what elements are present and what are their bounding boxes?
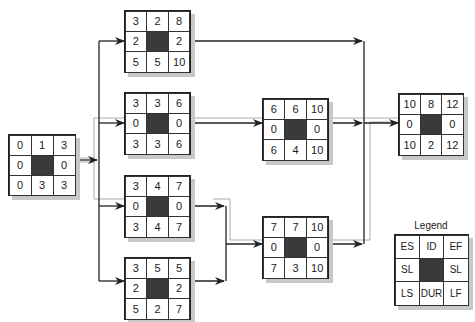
ls-cell: 0 (9, 175, 32, 196)
ef-cell: 10 (306, 99, 329, 120)
es-cell: 0 (9, 135, 32, 156)
activity-node-f: 6 6 10 0 0 6 4 10 (262, 98, 329, 161)
activity-node-e: 3 5 5 2 2 5 2 7 (124, 257, 191, 320)
center-fill (146, 31, 169, 52)
legend-id: ID (419, 235, 444, 259)
activity-node-g: 7 7 10 0 0 7 3 10 (262, 216, 329, 279)
center-fill (284, 119, 307, 140)
lf-cell: 7 (168, 216, 191, 237)
slack-left-cell: 0 (125, 196, 148, 217)
dur-cell: 5 (146, 51, 169, 72)
slack-right-cell: 0 (306, 119, 329, 140)
slack-right-cell: 0 (441, 114, 463, 135)
id-cell: 7 (284, 217, 307, 238)
es-cell: 3 (125, 258, 148, 279)
slack-left-cell: 0 (263, 119, 286, 140)
slack-right-cell: 0 (168, 196, 191, 217)
slack-right-cell: 0 (168, 113, 191, 134)
activity-node-d: 3 4 7 0 0 3 4 7 (124, 175, 191, 238)
id-cell: 3 (146, 93, 169, 114)
legend-ef: EF (443, 235, 468, 259)
ef-cell: 3 (53, 135, 76, 156)
ls-cell: 10 (399, 134, 421, 155)
dur-cell: 3 (31, 175, 54, 196)
slack-left-cell: 2 (125, 31, 148, 52)
center-fill (420, 114, 442, 135)
slack-left-cell: 0 (399, 114, 421, 135)
legend-lf: LF (443, 281, 468, 305)
center-fill (284, 237, 307, 258)
lf-cell: 7 (168, 298, 191, 319)
legend-ls: LS (395, 281, 420, 305)
id-cell: 5 (146, 258, 169, 279)
dur-cell: 4 (284, 139, 307, 160)
slack-left-cell: 0 (125, 113, 148, 134)
lf-cell: 3 (53, 175, 76, 196)
ls-cell: 6 (263, 139, 286, 160)
ls-cell: 7 (263, 257, 286, 278)
es-cell: 3 (125, 93, 148, 114)
es-cell: 3 (125, 176, 148, 197)
ls-cell: 5 (125, 51, 148, 72)
id-cell: 8 (420, 94, 442, 115)
es-cell: 7 (263, 217, 286, 238)
legend-es: ES (395, 235, 420, 259)
id-cell: 6 (284, 99, 307, 120)
id-cell: 2 (146, 11, 169, 32)
lf-cell: 10 (306, 257, 329, 278)
lf-cell: 6 (168, 133, 191, 154)
slack-right-cell: 2 (168, 278, 191, 299)
ef-cell: 10 (306, 217, 329, 238)
ef-cell: 5 (168, 258, 191, 279)
id-cell: 4 (146, 176, 169, 197)
ef-cell: 7 (168, 176, 191, 197)
id-cell: 1 (31, 135, 54, 156)
lf-cell: 12 (441, 134, 463, 155)
dur-cell: 2 (146, 298, 169, 319)
dur-cell: 3 (146, 133, 169, 154)
ef-cell: 8 (168, 11, 191, 32)
lf-cell: 10 (306, 139, 329, 160)
legend-center-fill (419, 258, 444, 282)
slack-right-cell: 0 (53, 155, 76, 176)
slack-left-cell: 2 (125, 278, 148, 299)
activity-node-h: 10 8 12 0 0 10 2 12 (398, 93, 464, 156)
center-fill (146, 113, 169, 134)
es-cell: 6 (263, 99, 286, 120)
dur-cell: 4 (146, 216, 169, 237)
legend-sl-left: SL (395, 258, 420, 282)
center-fill (146, 278, 169, 299)
dur-cell: 2 (420, 134, 442, 155)
critical-path-highlight (74, 118, 398, 240)
es-cell: 3 (125, 11, 148, 32)
center-fill (31, 155, 54, 176)
dur-cell: 3 (284, 257, 307, 278)
slack-left-cell: 0 (9, 155, 32, 176)
lf-cell: 10 (168, 51, 191, 72)
legend-dur: DUR (419, 281, 444, 305)
activity-node-b: 3 2 8 2 2 5 5 10 (124, 10, 191, 73)
ls-cell: 3 (125, 216, 148, 237)
slack-right-cell: 2 (168, 31, 191, 52)
ef-cell: 12 (441, 94, 463, 115)
ls-cell: 5 (125, 298, 148, 319)
activity-node-c: 3 3 6 0 0 3 3 6 (124, 92, 191, 155)
slack-left-cell: 0 (263, 237, 286, 258)
slack-right-cell: 0 (306, 237, 329, 258)
ef-cell: 6 (168, 93, 191, 114)
legend-title: Legend (394, 220, 468, 231)
center-fill (146, 196, 169, 217)
legend-box: ES ID EF SL SL LS DUR LF (394, 234, 469, 306)
es-cell: 10 (399, 94, 421, 115)
legend-sl-right: SL (443, 258, 468, 282)
ls-cell: 3 (125, 133, 148, 154)
activity-node-a: 0 1 3 0 0 0 3 3 (8, 134, 76, 196)
